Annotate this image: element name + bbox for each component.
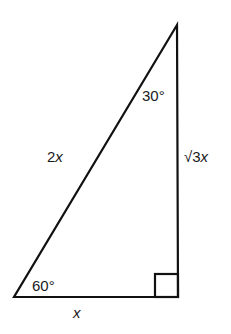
right-triangle bbox=[14, 25, 178, 297]
angle-bottom-left-label: 60° bbox=[32, 277, 55, 294]
vertical-side-var: x bbox=[200, 148, 209, 165]
triangle-diagram: 30° 60° 2x √3x x bbox=[0, 0, 231, 334]
angle-top-label: 30° bbox=[142, 87, 165, 104]
right-angle-marker bbox=[155, 274, 178, 297]
vertical-side-label: √3x bbox=[184, 148, 209, 165]
vertical-side-coef: √3 bbox=[184, 148, 201, 165]
hypotenuse-var: x bbox=[54, 148, 63, 165]
hypotenuse-label: 2x bbox=[47, 148, 63, 165]
base-label: x bbox=[72, 304, 81, 321]
hypotenuse-coef: 2 bbox=[47, 148, 55, 165]
